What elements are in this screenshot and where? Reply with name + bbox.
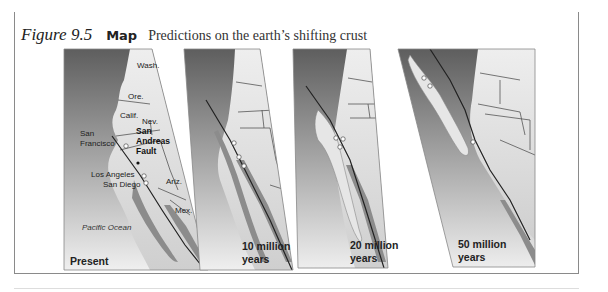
panel-label-10m-line2: years (242, 253, 270, 265)
panel-label-50m-line1: 50 million (458, 238, 506, 250)
label-fault-3: Fault (136, 146, 156, 156)
label-ariz: Ariz. (166, 177, 182, 186)
panel-label-20m-line2: years (350, 252, 378, 264)
map-series: Wash. Ore. Calif. Nev. San Francisco San… (0, 0, 608, 292)
label-sf-1: San (80, 129, 94, 138)
panel-label-50m-line2: years (458, 251, 486, 263)
label-san-diego: San Diego (103, 180, 141, 189)
map-panel-10-million-years: 10 million years (180, 49, 300, 274)
bottom-rule (14, 288, 579, 289)
panel-label-20m-line1: 20 million (350, 239, 398, 251)
map-panel-20-million-years: 20 million years (290, 49, 398, 274)
label-fault-1: San (136, 126, 152, 136)
label-fault-2: Andreas (136, 136, 170, 146)
panel-label-present: Present (70, 255, 109, 267)
label-los-angeles: Los Angeles (91, 170, 135, 179)
label-ore: Ore. (128, 92, 144, 101)
label-nev: Nev. (142, 117, 158, 126)
label-wash: Wash. (137, 61, 159, 70)
panel-label-10m-line1: 10 million (242, 240, 290, 252)
label-sf-2: Francisco (80, 139, 115, 148)
map-panel-50-million-years: 50 million years (395, 49, 540, 274)
label-pacific-ocean: Pacific Ocean (82, 223, 132, 232)
label-mex: Mex. (175, 206, 192, 215)
label-calif: Calif. (120, 111, 138, 120)
